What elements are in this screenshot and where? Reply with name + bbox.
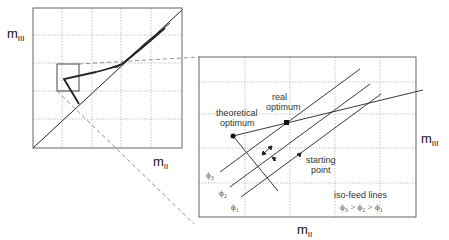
legend-title: iso-feed lines xyxy=(334,190,388,200)
theoretical-optimum-label: theoretical optimum xyxy=(216,108,260,128)
theoretical-optimum-point xyxy=(231,134,236,139)
real-optimum-point xyxy=(284,120,289,125)
iso-feed-line-phi2 xyxy=(230,84,370,187)
diagram-canvas: mIII mII xyxy=(0,0,449,240)
constraint-line xyxy=(233,90,423,136)
starting-point-label: starting point xyxy=(306,155,338,175)
legend-relation: ϕ₃ > ϕ₂ > ϕ₁ xyxy=(340,202,383,212)
detail-x-axis-label: mII xyxy=(297,222,312,239)
theoretical-drop-line xyxy=(233,136,278,191)
overview-plot: mIII mII xyxy=(7,8,182,171)
detail-plot: theoretical optimum real optimum startin… xyxy=(199,57,439,239)
phi1-label: ϕ₁ xyxy=(231,202,239,212)
overview-x-axis-label: mII xyxy=(153,154,168,171)
phi3-label: ϕ₃ xyxy=(206,170,214,180)
overview-y-axis-label: mIII xyxy=(7,26,25,43)
real-optimum-label: real optimum xyxy=(266,92,301,112)
zoom-connector-lines xyxy=(57,57,199,224)
iso-feed-line-phi1 xyxy=(241,94,381,197)
detail-y-axis-label: mIII xyxy=(421,131,439,148)
phi2-label: ϕ₂ xyxy=(219,188,227,198)
